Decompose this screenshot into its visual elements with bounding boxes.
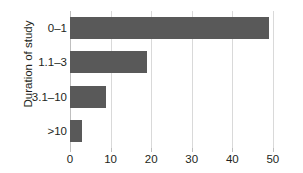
x-axis-tick-mark xyxy=(273,148,274,152)
bar xyxy=(70,86,106,108)
bar-chart: Duration of study 0–11.1–33.1–10>10 0102… xyxy=(0,0,303,173)
x-axis-tick-label: 20 xyxy=(145,153,158,165)
bar xyxy=(70,51,147,73)
y-axis-tick-label: 3.1–10 xyxy=(0,91,67,103)
x-axis-tick-label: 0 xyxy=(67,153,73,165)
bar xyxy=(70,17,269,39)
x-axis-tick-mark xyxy=(111,148,112,152)
x-axis-tick-mark xyxy=(232,148,233,152)
x-axis-tick-labels: 01020304050 xyxy=(0,148,303,173)
x-axis-tick-label: 30 xyxy=(185,153,198,165)
y-axis-tick-label: >10 xyxy=(0,125,67,137)
x-axis-tick-label: 40 xyxy=(226,153,239,165)
x-axis-tick-label: 10 xyxy=(104,153,117,165)
x-axis-tick-mark xyxy=(192,148,193,152)
x-axis-tick-mark xyxy=(151,148,152,152)
x-axis-tick-label: 50 xyxy=(266,153,279,165)
bar xyxy=(70,120,82,142)
gridline xyxy=(273,11,274,148)
y-axis-tick-label: 0–1 xyxy=(0,22,67,34)
y-axis-tick-label: 1.1–3 xyxy=(0,56,67,68)
x-axis-tick-mark xyxy=(70,148,71,152)
plot-area xyxy=(70,11,281,148)
